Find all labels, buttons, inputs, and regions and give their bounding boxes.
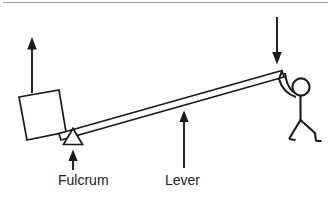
load-block [19, 90, 66, 140]
lever-pointer-arrow [179, 111, 188, 169]
lever-label: Lever [165, 173, 200, 188]
arrow-head-up-icon [68, 150, 77, 162]
fulcrum-pointer-arrow [68, 150, 77, 171]
person-left-foot [289, 139, 296, 140]
arrow-head-up-icon [179, 111, 188, 123]
stick-figure-person [279, 71, 322, 141]
person-left-leg [289, 120, 301, 139]
lever-diagram-figure: Fulcrum Lever [0, 0, 331, 201]
diagram-canvas [0, 0, 331, 201]
arrow-head-up-icon [27, 37, 37, 50]
load-force-arrow [27, 37, 37, 93]
person-head [292, 78, 309, 95]
arrow-head-down-icon [272, 52, 282, 65]
effort-force-arrow [272, 17, 282, 65]
lever-beam [59, 71, 284, 141]
person-right-leg [301, 120, 317, 141]
fulcrum-label: Fulcrum [58, 173, 109, 188]
